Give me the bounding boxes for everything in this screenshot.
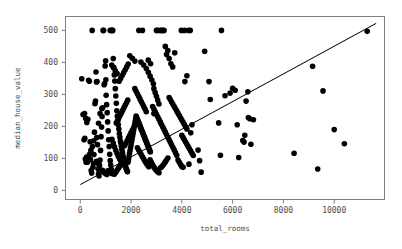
data-point [248,142,254,148]
data-point [236,155,242,161]
data-point [180,165,186,171]
data-point [125,97,131,103]
data-point [105,119,111,125]
data-point [187,28,193,34]
data-point [107,151,113,157]
y-tick-label: 100 [44,154,59,163]
data-point [202,48,208,54]
data-point [172,50,178,56]
data-point [251,117,257,123]
scatter-plot-figure: 02000400060008000100000100200300400500 t… [0,0,402,249]
data-point [82,135,88,141]
data-point [170,64,176,70]
data-point [143,109,149,115]
data-point [165,155,171,161]
data-point [291,150,297,156]
data-point [116,78,122,84]
x-tick-label: 2000 [121,206,140,215]
data-point [165,48,171,54]
data-point [227,90,233,96]
data-point [222,93,228,99]
data-point [182,79,188,85]
data-point [206,79,212,85]
x-tick-label: 8000 [274,206,293,215]
data-point [84,120,90,126]
x-tick-label: 6000 [223,206,242,215]
data-point [96,161,102,167]
data-point [91,138,97,144]
data-point [310,63,316,69]
data-point [174,152,180,158]
data-point [197,158,203,164]
data-point [99,106,105,112]
y-tick-label: 500 [44,26,59,35]
data-point [104,172,110,178]
data-point [96,120,102,126]
data-point [101,28,107,34]
data-point [104,110,110,116]
data-point [110,56,116,62]
x-tick-label: 4000 [172,206,191,215]
data-point [216,120,222,126]
data-point [166,56,172,62]
data-point [125,169,131,175]
data-point [207,97,213,103]
data-point [113,93,119,99]
data-point [82,111,88,117]
data-point [97,111,103,117]
data-point [195,147,201,153]
data-point [242,133,248,139]
x-tick-label: 10000 [322,206,346,215]
y-tick-label: 0 [53,186,58,195]
data-point [331,127,337,133]
data-point [232,87,238,93]
data-point [315,166,321,172]
data-point [241,139,247,145]
y-axis-title: median_house_value [13,67,22,149]
plot-canvas: 02000400060008000100000100200300400500 t… [0,0,402,249]
data-point [114,71,120,77]
data-point [234,122,240,128]
data-point [112,86,118,92]
data-point [188,130,194,136]
y-tick-label: 200 [44,122,59,131]
data-point [243,98,249,104]
data-point [103,77,109,83]
data-point [156,170,162,176]
data-point [87,78,93,84]
data-point [218,152,224,158]
data-point [79,76,85,82]
data-point [320,88,326,94]
data-point [186,161,192,167]
data-point [107,28,113,34]
data-point [140,28,146,34]
x-tick-label: 0 [78,206,83,215]
data-point [103,93,109,99]
data-point [102,63,108,69]
data-point [148,149,154,155]
data-point [92,129,98,135]
data-point [89,28,95,34]
data-point [132,58,138,64]
data-point [161,28,167,34]
y-tick-label: 300 [44,90,59,99]
data-point [133,120,139,126]
data-point [342,141,348,147]
y-tick-label: 400 [44,58,59,67]
x-axis-title: total_rooms [200,224,250,233]
data-point [93,98,99,104]
data-point [146,164,152,170]
data-point [219,28,225,34]
data-point [114,101,120,107]
data-point [85,159,91,165]
data-point [156,101,162,107]
data-point [151,111,157,117]
data-point [198,169,204,175]
data-point [190,153,196,159]
data-point [151,81,157,87]
data-point [184,73,190,79]
data-point [94,79,100,85]
data-point [105,128,111,134]
data-point [103,58,109,64]
data-point [148,61,154,67]
